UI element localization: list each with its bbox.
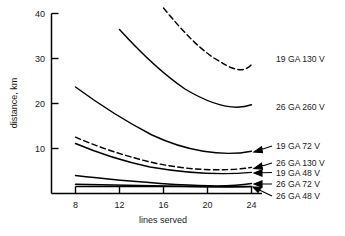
series-line-19ga130v <box>164 8 252 70</box>
series-label-19ga130v: 19 GA 130 V <box>276 54 325 64</box>
chart-figure: 40 30 20 10 8 12 16 20 24 distance, km l… <box>0 0 345 236</box>
arrow-26ga72v <box>254 181 272 187</box>
series-labels: 19 GA 130 V 26 GA 260 V 19 GA 72 V 26 GA… <box>276 54 325 201</box>
arrow-19ga48v <box>254 170 272 176</box>
arrow-26ga48v <box>253 187 272 196</box>
series-label-26ga72v: 26 GA 72 V <box>276 179 320 189</box>
x-axis-title: lines served <box>139 215 187 225</box>
x-tick-label-8: 8 <box>73 200 78 210</box>
series-label-26ga260v: 26 GA 260 V <box>276 102 325 112</box>
y-tick-label-10: 10 <box>35 144 45 154</box>
arrow-26ga130v <box>254 163 272 169</box>
series-line-26ga130v <box>76 87 252 153</box>
series-label-26ga48v: 26 GA 48 V <box>276 191 320 201</box>
series-label-19ga72v: 19 GA 72 V <box>276 141 320 151</box>
chart-series-group <box>76 8 252 187</box>
chart-axes: 40 30 20 10 8 12 16 20 24 distance, km l… <box>9 9 262 225</box>
x-tick-label-20: 20 <box>202 200 212 210</box>
x-tick-label-12: 12 <box>114 200 124 210</box>
y-axis-title: distance, km <box>9 78 19 129</box>
x-tick-label-16: 16 <box>158 200 168 210</box>
arrow-19ga72v <box>254 146 272 153</box>
y-tick-label-40: 40 <box>35 9 45 19</box>
y-tick-label-20: 20 <box>35 99 45 109</box>
annotation-arrows <box>253 146 272 196</box>
y-tick-label-30: 30 <box>35 54 45 64</box>
series-label-19ga48v: 19 GA 48 V <box>276 168 320 178</box>
x-tick-label-24: 24 <box>246 200 256 210</box>
series-label-26ga130v: 26 GA 130 V <box>276 158 325 168</box>
